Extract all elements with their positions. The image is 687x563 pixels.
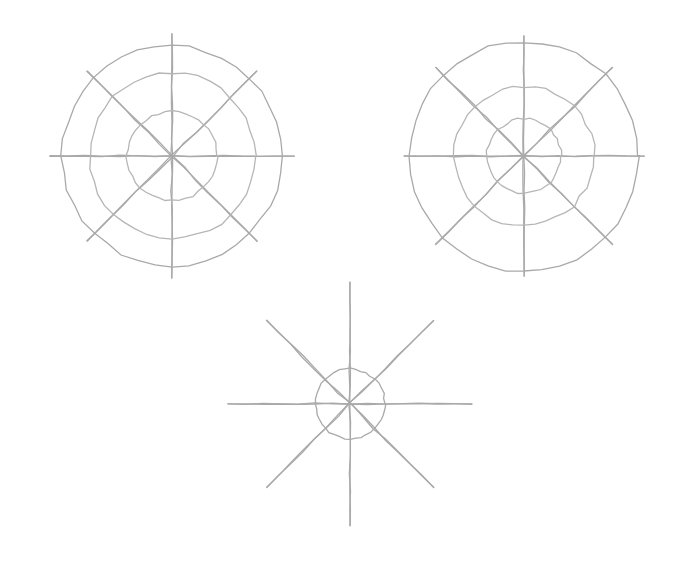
sketch-canvas-root — [0, 0, 687, 563]
polar-grid-sketch-canvas — [0, 0, 687, 563]
canvas-background — [0, 0, 687, 563]
polar-grid-figure-top-right-polar-grid — [404, 36, 644, 276]
